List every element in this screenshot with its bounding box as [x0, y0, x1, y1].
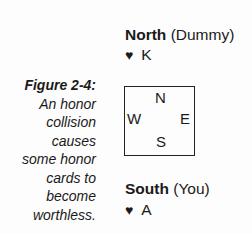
- compass-north: N: [155, 89, 166, 106]
- north-label: North (Dummy): [125, 26, 234, 44]
- north-card: K: [141, 46, 151, 63]
- south-hand: ♥A: [125, 201, 152, 219]
- caption-line: collision: [22, 113, 96, 132]
- compass-table: N W E S: [124, 86, 195, 156]
- caption-line: An honor: [22, 95, 96, 114]
- compass-west: W: [127, 110, 141, 127]
- caption-line: become: [22, 187, 96, 206]
- south-label: South (You): [125, 180, 210, 198]
- heart-icon: ♥: [125, 202, 133, 218]
- figure-caption: Figure 2-4: An honor collision causes so…: [22, 76, 96, 224]
- caption-line: worthless.: [22, 206, 96, 225]
- caption-line: some honor: [22, 150, 96, 169]
- north-role: (Dummy): [171, 26, 235, 43]
- south-role: (You): [173, 180, 209, 197]
- compass-south: S: [156, 133, 166, 150]
- caption-line: causes: [22, 132, 96, 151]
- compass-east: E: [180, 110, 190, 127]
- caption-line: cards to: [22, 169, 96, 188]
- north-name: North: [125, 26, 166, 43]
- north-hand: ♥K: [125, 46, 152, 64]
- south-card: A: [141, 201, 151, 218]
- figure-title: Figure 2-4:: [22, 76, 96, 95]
- heart-icon: ♥: [125, 47, 133, 63]
- south-name: South: [125, 180, 169, 197]
